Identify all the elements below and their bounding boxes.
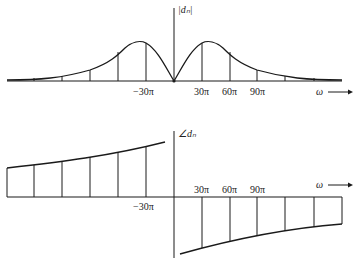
arrow-right-icon: [348, 183, 353, 188]
phase-envelope-left: [7, 142, 165, 168]
omega-label-bottom: ω: [316, 179, 323, 190]
magnitude-y-label: |dₙ|: [178, 4, 193, 15]
spectrum-diagram: |dₙ| −30π 30π 60π 90π ω: [0, 0, 358, 260]
phase-plot: ∠dₙ −30π 30π 60π 90π ω: [7, 128, 353, 258]
tick-label-60pi-top: 60π: [222, 86, 237, 97]
tick-label-neg30pi-bottom: −30π: [133, 201, 154, 212]
tick-label-90pi-top: 90π: [250, 86, 265, 97]
phase-y-label: ∠dₙ: [178, 128, 197, 139]
arrow-right-icon: [348, 90, 353, 95]
origin-dot: [172, 79, 175, 82]
magnitude-plot: |dₙ| −30π 30π 60π 90π ω: [7, 4, 353, 97]
omega-label-top: ω: [316, 86, 323, 97]
tick-label-90pi-bottom: 90π: [250, 184, 265, 195]
tick-label-60pi-bottom: 60π: [222, 184, 237, 195]
tick-label-neg30pi-top: −30π: [133, 86, 154, 97]
tick-label-30pi-bottom: 30π: [194, 184, 209, 195]
phase-stems-right: [202, 197, 342, 248]
magnitude-stems-right: [202, 43, 314, 81]
tick-label-30pi-top: 30π: [194, 86, 209, 97]
phase-envelope-right: [180, 224, 342, 254]
magnitude-stems-left: [34, 43, 146, 81]
phase-stems-left: [7, 146, 146, 197]
